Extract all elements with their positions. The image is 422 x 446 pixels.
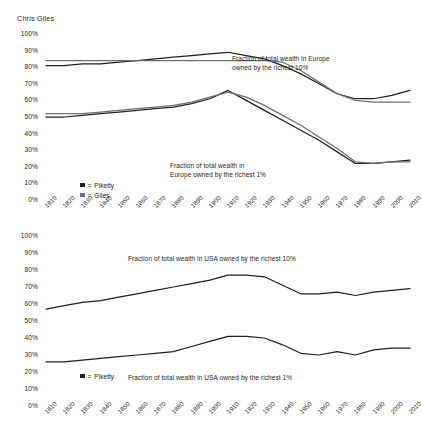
y-tick-label: 20%	[12, 368, 38, 375]
legend-item: =Piketty	[80, 180, 114, 190]
y-tick-label: 90%	[12, 249, 38, 256]
y-tick-label: 30%	[12, 351, 38, 358]
series-line	[46, 90, 410, 163]
legend-swatch-icon	[80, 374, 85, 379]
y-tick-label: 90%	[12, 47, 38, 54]
y-tick-label: 60%	[12, 96, 38, 103]
y-tick-label: 10%	[12, 385, 38, 392]
y-tick-label: 20%	[12, 163, 38, 170]
y-tick-label: 30%	[12, 146, 38, 153]
europe-annotation-top1: Fraction of total wealth in Europe owned…	[170, 162, 266, 179]
y-tick-label: 0%	[12, 196, 38, 203]
usa-legend: =Piketty	[80, 371, 114, 381]
usa-annotation-top1: Fraction of total wealth in USA owned by…	[128, 374, 292, 383]
legend-equals-sign: =	[88, 373, 92, 380]
legend-item: =Piketty	[80, 371, 114, 381]
y-tick-label: 80%	[12, 63, 38, 70]
y-tick-label: 0%	[12, 402, 38, 409]
usa-annotation-top10: Fraction of total wealth in USA owned by…	[128, 255, 296, 264]
y-tick-label: 100%	[12, 30, 38, 37]
y-tick-label: 100%	[12, 232, 38, 239]
series-line	[46, 61, 410, 102]
legend-equals-sign: =	[88, 182, 92, 189]
legend-swatch-icon	[80, 193, 85, 198]
y-tick-label: 50%	[12, 317, 38, 324]
y-tick-label: 60%	[12, 300, 38, 307]
chart-panel-europe: Fraction of total wealth in Europe owned…	[0, 22, 417, 234]
y-tick-label: 40%	[12, 130, 38, 137]
europe-annotation-top10: Fraction of total wealth in Europe owned…	[232, 55, 330, 72]
series-line	[46, 92, 410, 163]
legend-label: Piketty	[94, 373, 114, 380]
y-tick-label: 70%	[12, 80, 38, 87]
chart-panel-usa: Fraction of total wealth in USA owned by…	[0, 228, 417, 446]
series-line	[46, 275, 410, 309]
y-tick-label: 80%	[12, 266, 38, 273]
legend-swatch-icon	[80, 183, 85, 188]
y-tick-label: 70%	[12, 283, 38, 290]
series-line	[46, 336, 410, 362]
legend-label: Piketty	[94, 182, 114, 189]
y-tick-label: 10%	[12, 179, 38, 186]
y-tick-label: 40%	[12, 334, 38, 341]
y-tick-label: 50%	[12, 113, 38, 120]
